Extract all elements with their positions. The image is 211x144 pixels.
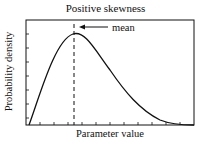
axis-ticks (26, 34, 180, 125)
plot-area: mean (0, 0, 211, 144)
plot-frame (26, 20, 194, 125)
density-curve (29, 33, 194, 125)
mean-annotation: mean (112, 22, 135, 33)
